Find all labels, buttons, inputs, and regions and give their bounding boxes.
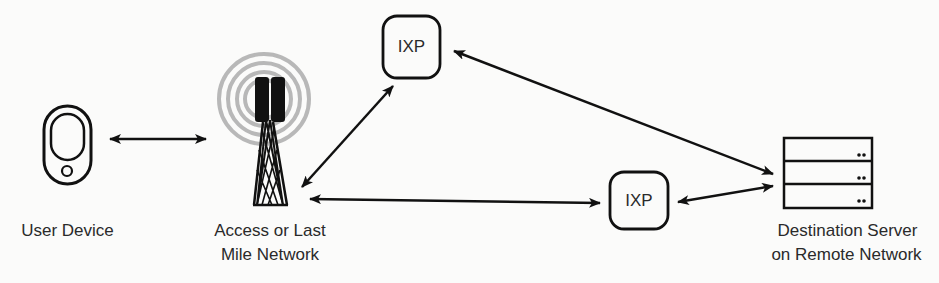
arrow-access-ixp-top (302, 86, 393, 187)
ixp-bottom-label: IXP (610, 189, 668, 212)
server-label-line1: Destination Server (760, 219, 935, 242)
user-device-label: User Device (0, 219, 135, 242)
arrow-access-ixp-bottom (310, 199, 600, 203)
cell-tower-icon (219, 54, 309, 205)
ixp-top-label: IXP (383, 35, 440, 58)
server-rack-icon (784, 138, 872, 208)
server-label-line2: on Remote Network (754, 243, 939, 266)
smartphone-icon (44, 106, 91, 184)
access-network-label-line1: Access or Last (200, 219, 340, 242)
arrow-ixp-top-server (454, 51, 773, 174)
arrow-ixp-bottom-server (678, 186, 773, 202)
access-network-label-line2: Mile Network (200, 243, 340, 266)
